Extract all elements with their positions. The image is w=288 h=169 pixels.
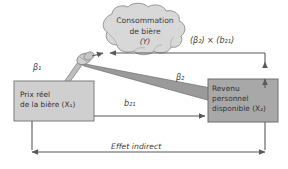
beta1-text: β₁ bbox=[33, 63, 41, 72]
cloud-line1: Consommation bbox=[100, 16, 190, 27]
cloud-label: Consommation de bière (Y) bbox=[100, 16, 190, 48]
product-text: (β₂) × (b₂₁) bbox=[190, 36, 234, 45]
diagram-canvas: Consommation de bière (Y) (β₂) × (b₂₁) β… bbox=[0, 0, 288, 169]
effet-indirect-text: Effet indirect bbox=[111, 142, 161, 151]
label-b21: b₂₁ bbox=[124, 99, 136, 108]
wedge-beta2 bbox=[80, 63, 211, 101]
cloud-line3: (Y) bbox=[100, 37, 190, 48]
wedge-beta1 bbox=[64, 62, 82, 83]
label-beta2: β₂ bbox=[176, 73, 184, 82]
arrow-product-to-cloud bbox=[110, 53, 265, 68]
revenu-line2: personnel bbox=[212, 94, 282, 104]
beta2-text: β₂ bbox=[176, 73, 184, 82]
box-prix-reel-label: Prix réel de la bière (X₁) bbox=[20, 90, 94, 110]
cloud-var-y: (Y) bbox=[140, 37, 151, 46]
box-revenu-label: Revenu personnel disponible (X₂) bbox=[212, 84, 282, 115]
label-beta1: β₁ bbox=[33, 63, 41, 72]
revenu-line3: disponible (X₂) bbox=[212, 104, 282, 114]
prix-reel-line1: Prix réel bbox=[20, 90, 94, 100]
revenu-line1: Revenu bbox=[212, 84, 282, 94]
prix-reel-line2: de la bière (X₁) bbox=[20, 100, 94, 110]
label-effet-indirect: Effet indirect bbox=[108, 142, 164, 151]
label-product-beta2-b21: (β₂) × (b₂₁) bbox=[190, 36, 234, 45]
cloud-line2: de bière bbox=[100, 27, 190, 38]
b21-text: b₂₁ bbox=[124, 99, 136, 108]
